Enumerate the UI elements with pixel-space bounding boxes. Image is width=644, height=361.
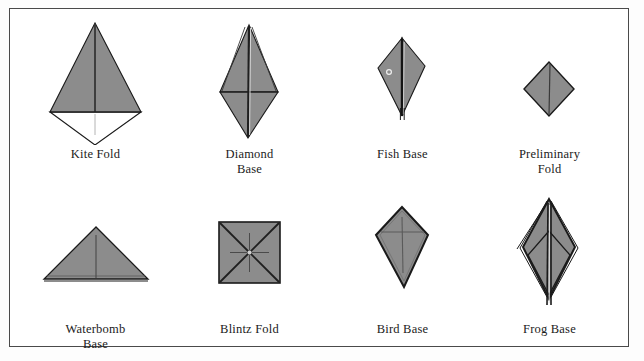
diagram-cell-diamond-base: Diamond Base (172, 20, 327, 176)
caption-blintz-fold: Blintz Fold (172, 322, 327, 337)
diamond-base-illustration (172, 20, 327, 145)
caption-waterbomb-base: Waterbomb Base (18, 322, 173, 351)
diagram-cell-fish-base: Fish Base (325, 20, 480, 162)
frog-base-illustration (472, 195, 627, 320)
kite-fold-illustration (18, 20, 173, 145)
caption-kite-fold: Kite Fold (18, 147, 173, 162)
frog-base-icon (492, 195, 607, 310)
waterbomb-base-illustration (18, 195, 173, 320)
preliminary-fold-icon (492, 20, 607, 145)
caption-bird-base: Bird Base (325, 322, 480, 337)
kite-fold-icon (38, 20, 153, 145)
blintz-fold-icon (192, 195, 307, 305)
diagram-cell-preliminary-fold: Preliminary Fold (472, 20, 627, 176)
origami-bases-figure: Kite Fold Diamond Base (0, 0, 644, 361)
caption-diamond-base: Diamond Base (172, 147, 327, 176)
diagram-cell-kite-fold: Kite Fold (18, 20, 173, 162)
diagram-cell-blintz-fold: Blintz Fold (172, 195, 327, 337)
bird-base-illustration (325, 195, 480, 320)
preliminary-fold-illustration (472, 20, 627, 145)
diagram-cell-frog-base: Frog Base (472, 195, 627, 337)
diamond-base-icon (192, 20, 307, 145)
fish-base-illustration (325, 20, 480, 145)
fish-base-icon (345, 20, 460, 145)
caption-fish-base: Fish Base (325, 147, 480, 162)
diagram-cell-bird-base: Bird Base (325, 195, 480, 337)
diagram-cell-waterbomb-base: Waterbomb Base (18, 195, 173, 351)
blintz-fold-illustration (172, 195, 327, 320)
bird-base-icon (345, 195, 460, 305)
waterbomb-base-icon (31, 195, 161, 305)
caption-frog-base: Frog Base (472, 322, 627, 337)
caption-preliminary-fold: Preliminary Fold (472, 147, 627, 176)
